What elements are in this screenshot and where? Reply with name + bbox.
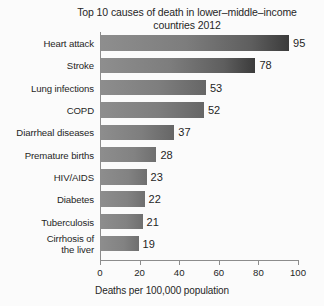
bar-rect[interactable] — [101, 236, 139, 251]
bar-rect[interactable] — [101, 147, 156, 162]
bar-value-label: 53 — [210, 82, 222, 94]
chart-title-line-2: countries 2012 — [62, 19, 312, 32]
bar-rect[interactable] — [101, 58, 255, 73]
bar-row: Tuberculosis 21 — [0, 210, 324, 232]
x-axis-tick — [140, 260, 141, 265]
chart-title-line-1: Top 10 causes of death in lower–middle–i… — [62, 6, 312, 19]
x-axis-tick — [258, 260, 259, 265]
bar-row: HIV/AIDS 23 — [0, 166, 324, 188]
bar-rect[interactable] — [101, 191, 145, 206]
bar-value-label: 19 — [143, 238, 155, 250]
bar-category-label: COPD — [0, 105, 94, 116]
chart-title: Top 10 causes of death in lower–middle–i… — [62, 6, 312, 32]
bar-row: Heart attack 95 — [0, 32, 324, 54]
bar-category-label-line: Diabetes — [0, 194, 94, 205]
x-axis-tick — [298, 260, 299, 265]
bar-value-label: 52 — [208, 104, 220, 116]
bar-category-label-line: COPD — [0, 105, 94, 116]
bar-value-label: 78 — [259, 59, 271, 71]
bar-value-label: 95 — [293, 37, 305, 49]
bar-category-label: Lung infections — [0, 82, 94, 93]
bar-row: Premature births 28 — [0, 144, 324, 166]
x-axis-tick-label: 40 — [159, 267, 199, 278]
bar-category-label: Diabetes — [0, 194, 94, 205]
bar-row: Diabetes 22 — [0, 188, 324, 210]
x-axis-title: Deaths per 100,000 population — [0, 285, 324, 296]
bar-category-label-line: Heart attack — [0, 38, 94, 49]
x-axis-tick — [100, 260, 101, 265]
x-axis-tick-label: 60 — [199, 267, 239, 278]
x-axis-tick-label: 20 — [120, 267, 160, 278]
x-axis: 0 20 40 60 80 100 Deaths per 100,000 pop… — [0, 260, 324, 306]
bars-group: Heart attack 95 Stroke 78 Lung infection… — [0, 32, 324, 260]
bar-rect[interactable] — [101, 169, 147, 184]
bar-category-label-line: HIV/AIDS — [0, 171, 94, 182]
bar-rect[interactable] — [101, 80, 206, 95]
bar-rect[interactable] — [101, 214, 143, 229]
bar-rect[interactable] — [101, 125, 174, 140]
x-axis-tick-label: 80 — [238, 267, 278, 278]
bar-category-label: HIV/AIDS — [0, 171, 94, 182]
bar-row: Stroke 78 — [0, 54, 324, 76]
x-axis-tick — [179, 260, 180, 265]
bar-row: Diarrheal diseases 37 — [0, 121, 324, 143]
bar-category-label-line: Lung infections — [0, 82, 94, 93]
x-axis-tick — [219, 260, 220, 265]
bar-rect[interactable] — [101, 102, 204, 117]
bar-category-label: Stroke — [0, 60, 94, 71]
bar-value-label: 21 — [147, 216, 159, 228]
bar-value-label: 37 — [178, 126, 190, 138]
bar-category-label: Cirrhosis of the liver — [0, 233, 94, 255]
bar-category-label-line: Stroke — [0, 60, 94, 71]
bar-category-label: Premature births — [0, 149, 94, 160]
bar-category-label-line: the liver — [0, 244, 94, 255]
x-axis-line — [100, 260, 298, 261]
bar-value-label: 22 — [149, 193, 161, 205]
x-axis-tick-label: 100 — [278, 267, 318, 278]
x-axis-tick-label: 0 — [80, 267, 120, 278]
bar-category-label-line: Diarrheal diseases — [0, 127, 94, 138]
bar-rect[interactable] — [101, 35, 289, 50]
bar-row: Cirrhosis of the liver 19 — [0, 233, 324, 255]
bar-category-label-line: Cirrhosis of — [0, 233, 94, 244]
bar-row: COPD 52 — [0, 99, 324, 121]
bar-category-label: Diarrheal diseases — [0, 127, 94, 138]
bar-category-label: Heart attack — [0, 38, 94, 49]
bar-chart-figure: Top 10 causes of death in lower–middle–i… — [0, 0, 324, 306]
bar-category-label: Tuberculosis — [0, 216, 94, 227]
bar-category-label-line: Tuberculosis — [0, 216, 94, 227]
bar-value-label: 28 — [160, 149, 172, 161]
plot-area: Heart attack 95 Stroke 78 Lung infection… — [0, 32, 324, 260]
bar-row: Lung infections 53 — [0, 77, 324, 99]
bar-value-label: 23 — [151, 171, 163, 183]
bar-category-label-line: Premature births — [0, 149, 94, 160]
